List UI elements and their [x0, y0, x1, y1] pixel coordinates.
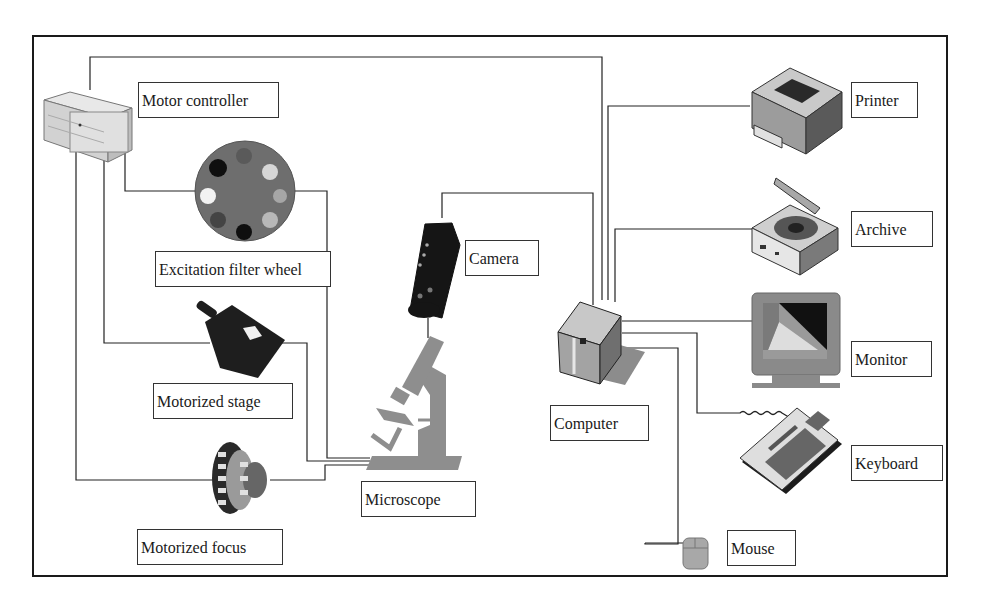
- label-motorized-focus: Motorized focus: [137, 529, 283, 565]
- label-printer: Printer: [851, 82, 918, 118]
- monitor-icon: [752, 293, 840, 388]
- motorized-focus-icon: [212, 442, 267, 514]
- wire-focus-microscope: [270, 465, 370, 480]
- label-mouse: Mouse: [727, 530, 796, 566]
- label-keyboard: Keyboard: [851, 445, 943, 481]
- microscope-icon: [366, 336, 462, 470]
- motor-controller-icon: [44, 92, 132, 162]
- label-computer: Computer: [550, 405, 649, 441]
- label-camera: Camera: [465, 240, 539, 276]
- mouse-icon: [683, 538, 708, 569]
- wire-computer-mouse: [622, 348, 678, 544]
- label-archive: Archive: [851, 211, 933, 247]
- archive-icon: [752, 178, 838, 275]
- wire-controller-filterwheel: [125, 150, 200, 191]
- motorized-stage-icon: [195, 299, 285, 378]
- filter-wheel-icon: [195, 141, 295, 241]
- wire-controller-focus: [76, 150, 215, 480]
- label-motor-controller: Motor controller: [138, 82, 279, 118]
- wire-stage-microscope: [282, 343, 370, 461]
- wire-computer-archive: [615, 229, 752, 302]
- printer-icon: [752, 68, 842, 154]
- wire-controller-stage: [104, 150, 210, 343]
- camera-icon: [408, 223, 460, 318]
- label-microscope: Microscope: [361, 481, 476, 517]
- keyboard-icon: [740, 408, 842, 494]
- wire-computer-printer: [608, 106, 750, 300]
- label-excitation-filter-wheel: Excitation filter wheel: [155, 251, 331, 287]
- label-monitor: Monitor: [851, 341, 932, 377]
- label-motorized-stage: Motorized stage: [153, 383, 293, 419]
- computer-icon: [558, 302, 645, 385]
